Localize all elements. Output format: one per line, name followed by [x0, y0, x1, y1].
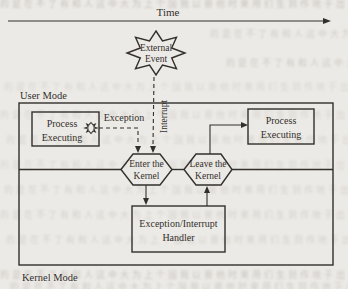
time-axis: Time: [8, 6, 331, 24]
enter-to-handler-edge: [143, 185, 149, 205]
handler-to-leave-edge: [204, 186, 210, 206]
exception-edge: Exception: [99, 112, 144, 153]
enter-kernel-node: Enter the Kernel: [121, 154, 172, 185]
mini-burst-icon: [85, 123, 97, 134]
handler-label-line2: Handler: [162, 232, 195, 243]
interrupt-dashed-line: [153, 77, 154, 145]
scanned-page: 的是在不了有和人这中大为上个国我以要他时来用们生到作地于出就分对成会可主发年动的…: [0, 0, 348, 289]
interrupt-edge: Interrupt: [150, 77, 169, 153]
leave-kernel-node: Leave the Kernel: [184, 154, 232, 185]
interrupt-arrowhead-icon: [150, 146, 156, 153]
handler-box: [132, 206, 225, 252]
time-axis-label: Time: [157, 6, 180, 18]
user-mode-label: User Mode: [20, 90, 67, 101]
process-left-label-line1: Process: [47, 118, 78, 129]
process-right-label-line1: Process: [266, 115, 297, 126]
handler-to-leave-arrowhead-icon: [204, 186, 210, 193]
kernel-mode-transition-diagram: Time External Event User Mode Kernel Mod…: [0, 0, 348, 289]
exception-arrowhead-icon: [135, 146, 141, 153]
handler-label-line1: Exception/Interrupt: [139, 218, 218, 229]
leave-kernel-label-line1: Leave the: [189, 159, 226, 169]
time-arrowhead-icon: [323, 18, 331, 24]
leave-kernel-label-line2: Kernel: [195, 171, 221, 181]
process-right-label-line2: Executing: [261, 129, 302, 140]
enter-to-handler-arrowhead-icon: [143, 198, 149, 205]
exception-edge-label: Exception: [104, 112, 145, 123]
process-executing-right-node: Process Executing: [248, 109, 314, 144]
leave-to-process-edge: [210, 122, 248, 154]
enter-kernel-label-line2: Kernel: [134, 171, 160, 181]
external-event-node: External Event: [127, 31, 185, 75]
interrupt-edge-label: Interrupt: [159, 99, 169, 133]
exception-dashed-line: [99, 128, 138, 145]
handler-node: Exception/Interrupt Handler: [132, 206, 225, 252]
leave-to-process-arrowhead-icon: [241, 122, 248, 128]
leave-to-process-line: [210, 125, 241, 154]
external-event-label-line2: Event: [145, 54, 168, 64]
process-executing-left-node: Process Executing: [32, 112, 99, 146]
external-event-label-line1: External: [140, 43, 173, 53]
kernel-mode-label: Kernel Mode: [22, 272, 78, 283]
process-left-label-line2: Executing: [42, 132, 83, 143]
enter-kernel-label-line1: Enter the: [129, 159, 164, 169]
